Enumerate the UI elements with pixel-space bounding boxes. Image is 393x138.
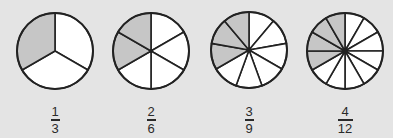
fraction-numerator: 1 (40, 105, 70, 118)
fraction-label-two-sixths: 2 6 (136, 105, 166, 135)
fraction-circle-one-third (17, 13, 93, 89)
fraction-label-four-twelfths: 4 12 (330, 105, 360, 135)
center-dot (342, 48, 347, 53)
fraction-denominator: 3 (40, 122, 70, 135)
fraction-denominator: 12 (330, 122, 360, 135)
fraction-circle-four-twelfths (307, 13, 383, 89)
fraction-denominator: 6 (136, 122, 166, 135)
fraction-label-three-ninths: 3 9 (234, 105, 264, 135)
fraction-numerator: 3 (234, 105, 264, 118)
fraction-circle-two-sixths (113, 13, 189, 89)
fraction-denominator: 9 (234, 122, 264, 135)
fraction-numerator: 4 (330, 105, 360, 118)
fraction-label-one-third: 1 3 (40, 105, 70, 135)
center-dot (246, 47, 251, 52)
fraction-numerator: 2 (136, 105, 166, 118)
center-dot (149, 49, 153, 53)
fraction-circle-three-ninths (211, 12, 287, 88)
